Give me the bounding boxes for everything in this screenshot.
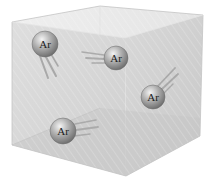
atom-label: Ar: [57, 125, 69, 137]
atom-2: Ar: [104, 46, 128, 70]
argon-box-diagram: Ar Ar Ar Ar: [0, 0, 212, 184]
atom-label: Ar: [39, 38, 51, 50]
atom-4: Ar: [50, 118, 76, 144]
atom-1: Ar: [32, 31, 58, 57]
atom-label: Ar: [147, 91, 159, 103]
atom-3: Ar: [141, 85, 165, 109]
diagram-canvas: Ar Ar Ar Ar: [0, 0, 212, 184]
atom-label: Ar: [110, 52, 122, 64]
